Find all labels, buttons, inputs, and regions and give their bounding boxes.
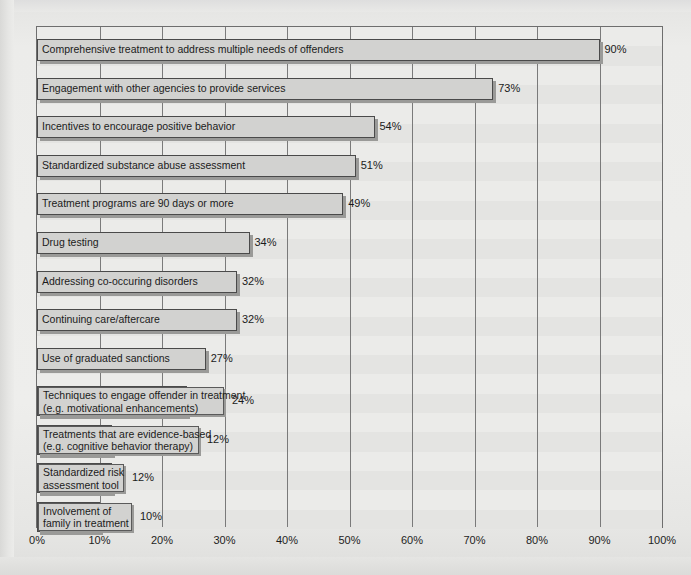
bar-category-label-line: Treatments that are evidence-based: [43, 428, 195, 441]
bar-category-label: Incentives to encourage positive behavio…: [38, 119, 238, 134]
bar-row: Comprehensive treatment to address multi…: [37, 39, 662, 61]
scan-edge-top: [0, 0, 691, 12]
bar-category-label-line: Continuing care/aftercare: [42, 313, 160, 326]
bar-value-label: 51%: [361, 159, 383, 171]
bar-category-label: Comprehensive treatment to address multi…: [38, 42, 347, 57]
bar-value-label: 12%: [207, 433, 229, 445]
x-tick-0: 0%: [29, 534, 45, 546]
bar-row: Involvement offamily in treatment10%: [37, 502, 662, 532]
bar-category-label-line: Engagement with other agencies to provid…: [42, 82, 285, 95]
bar-category-label-line: (e.g. cognitive behavior therapy): [43, 440, 195, 453]
bar-category-label-line: Involvement of: [43, 505, 128, 518]
bar-category-label-line: Standardized risk: [43, 466, 120, 479]
x-tick-50: 50%: [338, 534, 360, 546]
x-tick-60: 60%: [401, 534, 423, 546]
bar-row: Continuing care/aftercare32%: [37, 309, 662, 331]
x-axis-tick-labels: 0%10%20%30%40%50%60%70%80%90%100%: [0, 534, 691, 554]
bar-category-label: Treatments that are evidence-based(e.g. …: [38, 426, 199, 454]
bar-category-label: Treatment programs are 90 days or more: [38, 196, 237, 211]
bar-category-label-line: Comprehensive treatment to address multi…: [42, 43, 344, 56]
bar-category-label-line: Standardized substance abuse assessment: [42, 159, 245, 172]
bar-row: Treatment programs are 90 days or more49…: [37, 193, 662, 215]
bar-row: Incentives to encourage positive behavio…: [37, 116, 662, 138]
x-tick-10: 10%: [88, 534, 110, 546]
x-tick-40: 40%: [276, 534, 298, 546]
x-tick-100: 100%: [648, 534, 676, 546]
x-tick-20: 20%: [151, 534, 173, 546]
scan-edge-left: [0, 0, 14, 575]
bar-value-label: 12%: [132, 471, 154, 483]
bar-value-label: 10%: [140, 510, 162, 522]
bar-category-label: Addressing co-occuring disorders: [38, 274, 201, 289]
bar-category-label-line: Drug testing: [42, 236, 99, 249]
bar-category-label: Use of graduated sanctions: [38, 351, 173, 366]
bar-category-label: Involvement offamily in treatment: [38, 503, 132, 531]
bar-category-label-line: Techniques to engage offender in treatme…: [43, 389, 220, 402]
bar-value-label: 32%: [242, 313, 264, 325]
bar-value-label: 24%: [232, 394, 254, 406]
bar-category-label-line: family in treatment: [43, 517, 128, 530]
bar-value-label: 49%: [348, 197, 370, 209]
bar-value-label: 34%: [255, 236, 277, 248]
scan-edge-bottom: [0, 557, 691, 575]
x-tick-90: 90%: [588, 534, 610, 546]
bar-category-label-line: (e.g. motivational enhancements): [43, 402, 220, 415]
bar-value-label: 32%: [242, 275, 264, 287]
bar-category-label-line: Treatment programs are 90 days or more: [42, 197, 234, 210]
x-tick-30: 30%: [213, 534, 235, 546]
bar-category-label-line: Use of graduated sanctions: [42, 352, 170, 365]
bar-row: Engagement with other agencies to provid…: [37, 78, 662, 100]
chart-page: Comprehensive treatment to address multi…: [0, 0, 691, 575]
bar-category-label: Engagement with other agencies to provid…: [38, 81, 288, 96]
bar-category-label-line: assessment tool: [43, 479, 120, 492]
bar-row: Standardized riskassessment tool12%: [37, 463, 662, 493]
bar-category-label: Drug testing: [38, 235, 102, 250]
bar-category-label-line: Incentives to encourage positive behavio…: [42, 120, 235, 133]
bar-row: Drug testing34%: [37, 232, 662, 254]
bar-row: Treatments that are evidence-based(e.g. …: [37, 425, 662, 455]
bar-value-label: 73%: [498, 82, 520, 94]
bar-value-label: 54%: [380, 120, 402, 132]
bar-category-label: Techniques to engage offender in treatme…: [38, 387, 224, 415]
bar-category-label: Standardized substance abuse assessment: [38, 158, 248, 173]
plot-area: Comprehensive treatment to address multi…: [36, 26, 663, 528]
bar-category-label: Continuing care/aftercare: [38, 312, 163, 327]
bar-value-label: 90%: [605, 43, 627, 55]
x-tick-70: 70%: [463, 534, 485, 546]
bar-category-label: Standardized riskassessment tool: [38, 464, 124, 492]
bar-row: Techniques to engage offender in treatme…: [37, 386, 662, 416]
x-tick-80: 80%: [526, 534, 548, 546]
bar-category-label-line: Addressing co-occuring disorders: [42, 275, 198, 288]
bar-row: Addressing co-occuring disorders32%: [37, 271, 662, 293]
bar-row: Standardized substance abuse assessment5…: [37, 155, 662, 177]
bar-row: Use of graduated sanctions27%: [37, 348, 662, 370]
bar-value-label: 27%: [211, 352, 233, 364]
